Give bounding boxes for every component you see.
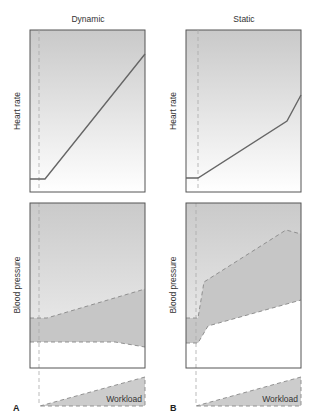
panel-b-blood-pressure	[186, 203, 301, 405]
column-title-static: Static	[233, 14, 255, 24]
panel-letter-a: A	[13, 403, 20, 413]
panel-a-blood-pressure	[30, 203, 145, 405]
panel-letter-b: B	[170, 403, 177, 413]
workload-label-a: Workload	[106, 394, 142, 404]
ylabel-heart-rate-a: Heart rate	[12, 92, 22, 130]
figure: Dynamic Static Heart rate Heart rate Blo…	[0, 0, 314, 418]
ylabel-blood-pressure-a: Blood pressure	[12, 256, 22, 313]
workload-ramp-a: Workload	[40, 377, 145, 406]
ylabel-heart-rate-b: Heart rate	[168, 92, 178, 130]
panel-b-heart-rate	[186, 30, 301, 192]
workload-ramp-b: Workload	[196, 377, 301, 406]
column-title-dynamic: Dynamic	[71, 14, 105, 24]
ylabel-blood-pressure-b: Blood pressure	[168, 256, 178, 313]
panel-a-heart-rate	[30, 30, 145, 192]
workload-label-b: Workload	[262, 394, 298, 404]
figure-canvas: Dynamic Static Heart rate Heart rate Blo…	[0, 0, 314, 418]
